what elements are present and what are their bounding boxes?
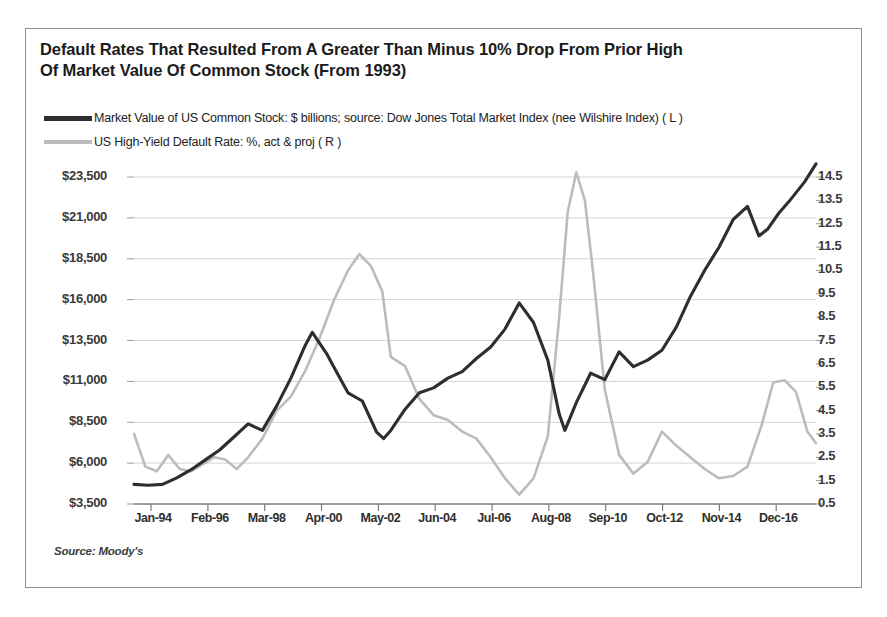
x-axis-tick-label: Feb-96	[191, 511, 229, 525]
chart-title: Default Rates That Resulted From A Great…	[40, 39, 845, 82]
chart-frame: Default Rates That Resulted From A Great…	[25, 28, 862, 588]
y-axis-right-tick-label: 11.5	[818, 239, 860, 252]
y-axis-left-tick-label: $8,500	[27, 414, 107, 427]
legend-swatch-default-rate-icon	[44, 140, 92, 144]
y-axis-right-tick-label: 0.5	[818, 496, 860, 509]
chart-legend: Market Value of US Common Stock: $ billi…	[44, 107, 844, 153]
x-axis-tick-label: Jun-04	[418, 511, 456, 525]
y-axis-right-tick-label: 8.5	[818, 309, 860, 322]
x-axis-tick-label: Sep-10	[588, 511, 627, 525]
x-axis-tick-label: Apr-00	[305, 511, 342, 525]
chart-title-line-2: Of Market Value Of Common Stock (From 19…	[40, 60, 845, 81]
x-axis-tick-label: Dec-16	[759, 511, 798, 525]
axis-ticks	[127, 177, 823, 511]
legend-swatch-market-value-icon	[44, 116, 92, 121]
series-line-default-rate	[134, 172, 816, 494]
y-axis-right-tick-label: 14.5	[818, 169, 860, 182]
source-note: Source: Moody's	[54, 545, 143, 557]
y-axis-left-tick-label: $23,500	[27, 169, 107, 182]
x-axis-tick-label: Nov-14	[702, 511, 741, 525]
y-axis-left-tick-label: $11,000	[27, 373, 107, 386]
y-axis-right-tick-label: 10.5	[818, 262, 860, 275]
y-axis-right-tick-label: 2.5	[818, 449, 860, 462]
y-axis-right-tick-label: 12.5	[818, 216, 860, 229]
y-axis-left-tick-label: $16,000	[27, 292, 107, 305]
chart-screenshot: Default Rates That Resulted From A Great…	[0, 0, 887, 617]
gridlines	[134, 177, 816, 463]
plot-area: $3,500$6,000$8,500$11,000$13,500$16,000$…	[26, 159, 863, 549]
x-axis-tick-label: Aug-08	[531, 511, 571, 525]
y-axis-right-tick-label: 6.5	[818, 356, 860, 369]
legend-label-default-rate: US High-Yield Default Rate: %, act & pro…	[94, 135, 341, 149]
x-axis-tick-label: Mar-98	[248, 511, 286, 525]
x-axis-tick-label: Jan-94	[134, 511, 171, 525]
y-axis-left-tick-label: $18,500	[27, 251, 107, 264]
y-axis-right-tick-label: 4.5	[818, 403, 860, 416]
y-axis-left-tick-label: $21,000	[27, 210, 107, 223]
y-axis-left-tick-label: $6,000	[27, 455, 107, 468]
x-axis-tick-label: Oct-12	[646, 511, 683, 525]
legend-item-market-value: Market Value of US Common Stock: $ billi…	[44, 107, 844, 129]
y-axis-right-tick-label: 13.5	[818, 192, 860, 205]
chart-svg	[26, 159, 863, 549]
x-axis-tick-label: Jul-06	[477, 511, 511, 525]
y-axis-right-tick-label: 7.5	[818, 333, 860, 346]
y-axis-right-tick-label: 5.5	[818, 379, 860, 392]
chart-title-line-1: Default Rates That Resulted From A Great…	[40, 40, 683, 58]
x-axis-tick-label: May-02	[360, 511, 400, 525]
y-axis-right-tick-label: 9.5	[818, 286, 860, 299]
y-axis-left-tick-label: $13,500	[27, 333, 107, 346]
y-axis-right-tick-label: 3.5	[818, 426, 860, 439]
y-axis-left-tick-label: $3,500	[27, 496, 107, 509]
legend-item-default-rate: US High-Yield Default Rate: %, act & pro…	[44, 131, 844, 153]
legend-label-market-value: Market Value of US Common Stock: $ billi…	[94, 111, 683, 125]
y-axis-right-tick-label: 1.5	[818, 473, 860, 486]
